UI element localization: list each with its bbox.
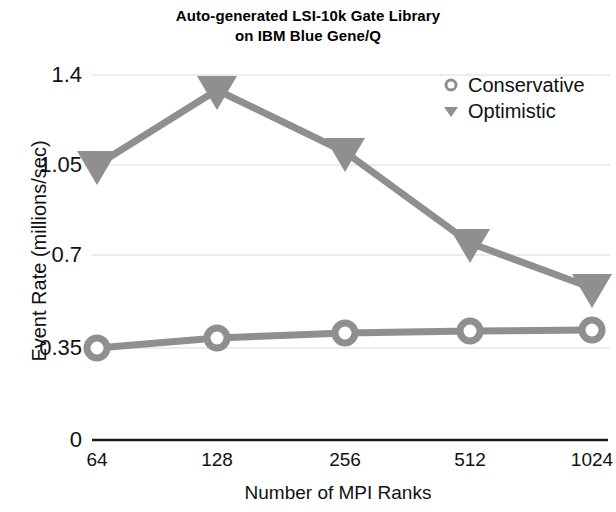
x-tick-label-128: 128 bbox=[172, 450, 262, 469]
open-circle-icon bbox=[440, 74, 462, 96]
data-point-conservative-128 bbox=[207, 328, 227, 348]
data-point-conservative-512 bbox=[460, 321, 480, 341]
data-point-conservative-256 bbox=[335, 323, 355, 343]
data-point-conservative-64 bbox=[87, 338, 107, 358]
x-tick-label-512: 512 bbox=[425, 450, 515, 469]
legend-label-conservative: Conservative bbox=[462, 74, 585, 96]
x-axis-label: Number of MPI Ranks bbox=[60, 482, 616, 503]
data-point-conservative-1024 bbox=[582, 320, 602, 340]
data-point-optimistic-256 bbox=[325, 138, 365, 172]
x-tick-label-256: 256 bbox=[300, 450, 390, 469]
data-point-optimistic-1024 bbox=[572, 274, 612, 308]
data-point-optimistic-64 bbox=[77, 151, 117, 185]
y-tick-label-1.4: 1.4 bbox=[10, 64, 82, 86]
x-tick-label-1024: 1024 bbox=[547, 450, 616, 469]
legend-item-optimistic: Optimistic bbox=[440, 98, 616, 124]
chart-figure: Auto-generated LSI-10k Gate Library on I… bbox=[0, 0, 616, 512]
legend-item-conservative: Conservative bbox=[440, 72, 616, 98]
legend-label-optimistic: Optimistic bbox=[462, 100, 556, 122]
y-axis-label: Event Rate (millions/sec) bbox=[28, 86, 50, 416]
filled-triangle-down-icon bbox=[440, 100, 462, 122]
chart-legend: Conservative Optimistic bbox=[440, 72, 616, 124]
y-tick-label-0: 0 bbox=[10, 429, 82, 451]
x-tick-label-64: 64 bbox=[52, 450, 142, 469]
